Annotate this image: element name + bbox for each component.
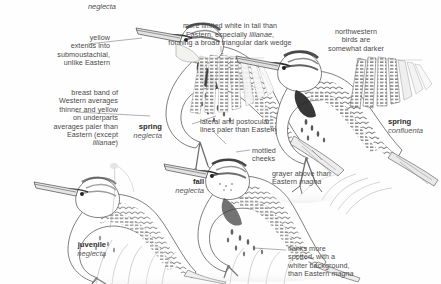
caption-spring-confluenta: spring confluenta [388,118,441,135]
annotation-northwestern-darker: northwestern birds are somewhat darker [304,28,408,53]
annotation-lateral-postocular: lateral and postocular lines paler than … [200,118,320,135]
annotation-tail-white: more limited white in tail thanEastern, … [136,14,324,48]
illustration-plate: neglecta yellow extends into submoustach… [0,0,441,284]
caption-fall-neglecta-sci: neglecta [148,187,204,196]
caption-juvenile-neglecta-sci: neglecta [48,250,106,259]
annotation-flanks-spotted: flanks morespotted, with awhiter backgro… [288,245,398,279]
annotation-mottled-cheeks: mottled cheeks [252,147,312,164]
caption-juvenile-neglecta: juvenile neglecta [48,241,106,258]
annotation-yellow-submoustachial: yellow extends into submoustachial, unli… [2,34,110,68]
caption-spring-confluenta-sci: confluenta [388,127,441,136]
caption-fall-neglecta: fall neglecta [148,178,204,195]
caption-spring-neglecta-sci: neglecta [100,132,162,141]
caption-spring-neglecta: spring neglecta [100,123,162,140]
annotation-tail-white-line1: more limited white in tail thanEastern, … [168,21,291,47]
annotation-grayer-above: grayer above thanEastern magna [272,170,382,187]
label-neglecta-top: neglecta [88,2,116,11]
